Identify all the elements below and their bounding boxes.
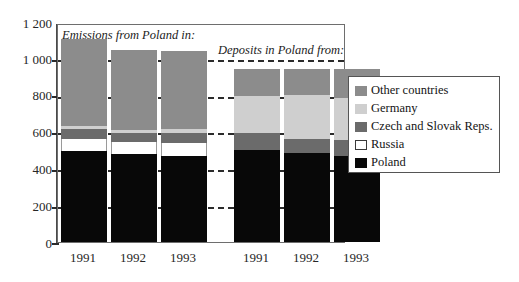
panel-caption-emissions: Emissions from Poland in: — [62, 29, 195, 42]
legend-swatch-czech-slovak-icon — [355, 122, 367, 132]
bar-emissions-1993 — [161, 51, 207, 242]
x-tick-deposits-1991: 1991 — [233, 251, 279, 264]
legend-label-russia: Russia — [371, 138, 404, 151]
segment-czech-slovak — [284, 139, 330, 154]
legend-swatch-germany-icon — [355, 104, 367, 114]
x-tick-emissions-1992: 1992 — [110, 251, 156, 264]
chart-legend: Other countries Germany Czech and Slovak… — [348, 76, 500, 173]
y-tick-800: 800 — [33, 89, 53, 102]
chart-figure: 1 200 1 000 800 600 400 200 0 — [0, 0, 519, 282]
plot-area: Emissions from Poland in: Deposits in Po… — [57, 24, 345, 243]
segment-czech-slovak — [111, 133, 157, 142]
y-tick-1000: 1 000 — [23, 53, 52, 66]
segment-poland — [284, 153, 330, 242]
segment-czech-slovak — [234, 133, 280, 150]
segment-czech-slovak — [61, 129, 107, 138]
legend-label-czech-slovak: Czech and Slovak Reps. — [371, 120, 493, 133]
segment-other-countries — [234, 69, 280, 95]
legend-label-other-countries: Other countries — [371, 84, 448, 97]
segment-russia — [161, 143, 207, 156]
legend-item-russia: Russia — [355, 136, 499, 153]
legend-item-germany: Germany — [355, 100, 499, 117]
segment-germany — [284, 95, 330, 139]
segment-poland — [111, 154, 157, 242]
legend-swatch-russia-icon — [355, 140, 367, 150]
bar-emissions-1991 — [61, 39, 107, 242]
bar-deposits-1991 — [234, 69, 280, 242]
legend-label-poland: Poland — [371, 156, 406, 169]
legend-item-czech-slovak: Czech and Slovak Reps. — [355, 118, 499, 135]
bar-emissions-1992 — [111, 50, 157, 243]
x-tick-deposits-1992: 1992 — [283, 251, 329, 264]
segment-other-countries — [111, 50, 157, 130]
legend-swatch-poland-icon — [355, 158, 367, 168]
segment-russia — [61, 139, 107, 152]
segment-poland — [161, 156, 207, 242]
panel-caption-deposits: Deposits in Poland from: — [218, 44, 344, 57]
x-tick-deposits-1993: 1993 — [333, 251, 379, 264]
legend-swatch-other-countries-icon — [355, 86, 367, 96]
y-axis-tickmark-0 — [52, 243, 59, 245]
legend-item-other-countries: Other countries — [355, 82, 499, 99]
y-tick-600: 600 — [33, 126, 53, 139]
bar-deposits-1992 — [284, 69, 330, 242]
segment-other-countries — [284, 69, 330, 95]
segment-other-countries — [161, 51, 207, 129]
segment-poland — [234, 150, 280, 242]
segment-other-countries — [61, 39, 107, 126]
segment-germany — [234, 96, 280, 133]
legend-item-poland: Poland — [355, 154, 499, 171]
legend-label-germany: Germany — [371, 102, 418, 115]
segment-czech-slovak — [161, 133, 207, 144]
y-axis-tick-labels: 1 200 1 000 800 600 400 200 0 — [0, 0, 52, 282]
segment-russia — [111, 142, 157, 153]
x-tick-emissions-1991: 1991 — [60, 251, 106, 264]
segment-germany — [111, 130, 157, 134]
y-tick-1200: 1 200 — [23, 17, 52, 30]
segment-germany — [161, 129, 207, 133]
y-tick-200: 200 — [33, 200, 53, 213]
x-tick-emissions-1993: 1993 — [160, 251, 206, 264]
y-tick-400: 400 — [33, 163, 53, 176]
segment-germany — [61, 126, 107, 130]
segment-poland — [61, 151, 107, 242]
